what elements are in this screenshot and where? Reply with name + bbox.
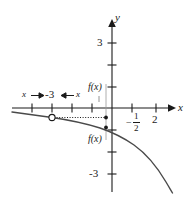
x-tick-label-2: 2 xyxy=(152,114,158,125)
y-value-fraction-label: − 1 2 xyxy=(126,112,140,133)
x-tick-label-neg3: -3 xyxy=(45,89,54,100)
open-point-marker xyxy=(49,114,55,120)
x-axis-arrowhead xyxy=(168,104,176,112)
limit-graph-figure: y x 3 -3 -3 2 x x f(x) f(x) − 1 2 xyxy=(0,0,188,203)
function-curve xyxy=(12,112,173,193)
fx-label-bottom: f(x) xyxy=(88,134,102,144)
fraction-numerator: 1 xyxy=(133,112,140,121)
fraction-stack: 1 2 xyxy=(133,112,140,133)
y-tick-label-neg3: -3 xyxy=(89,168,98,179)
x-axis-label: x xyxy=(178,102,183,113)
approach-label-right: x xyxy=(76,90,80,99)
fx-label-top: f(x) xyxy=(88,82,102,92)
fraction-denominator: 2 xyxy=(133,124,140,133)
fx-point-lower xyxy=(104,126,108,130)
approach-label-left: x xyxy=(22,90,26,99)
approach-arrow-left xyxy=(31,93,44,98)
y-axis-label: y xyxy=(115,12,120,23)
approach-arrow-right-head xyxy=(61,93,66,98)
fx-point-upper xyxy=(104,116,108,120)
y-tick-label-3: 3 xyxy=(97,37,103,48)
fraction-minus-sign: − xyxy=(126,117,132,128)
approach-arrow-right xyxy=(61,93,74,98)
approach-arrow-left-head xyxy=(39,93,44,98)
